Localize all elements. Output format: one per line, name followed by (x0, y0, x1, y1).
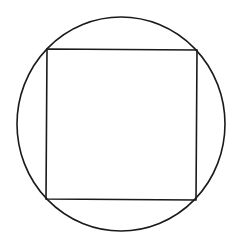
inscribed-square (46, 49, 197, 200)
diagram-figure (0, 0, 243, 250)
inscribed-square-diagram (0, 0, 243, 250)
